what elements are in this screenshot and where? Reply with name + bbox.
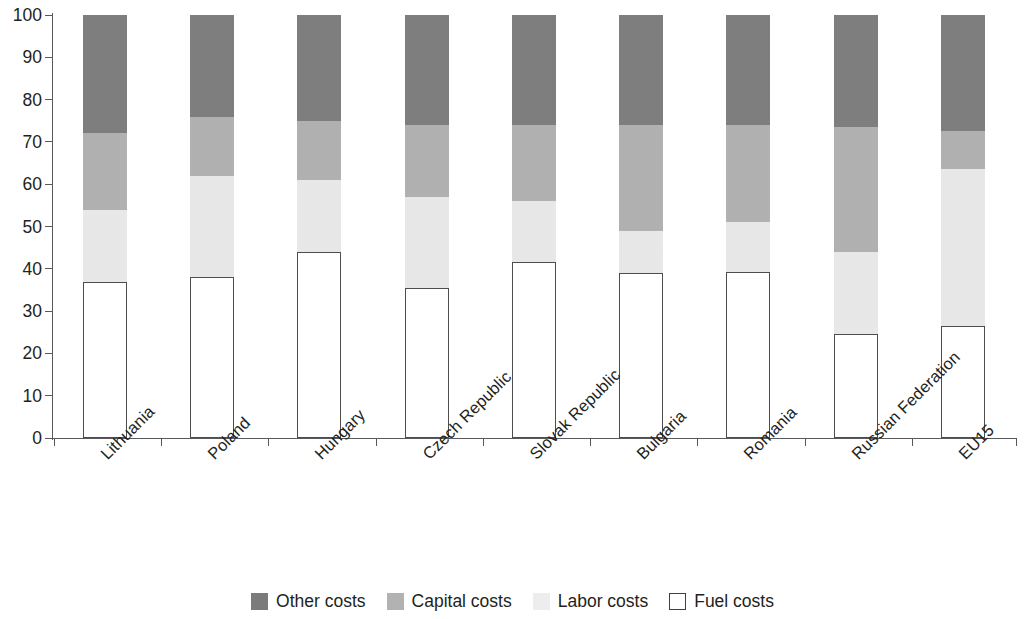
legend-label: Labor costs bbox=[558, 592, 648, 610]
legend-item-other-costs: Other costs bbox=[251, 592, 365, 610]
x-axis-tick bbox=[54, 438, 55, 446]
y-axis-tick-label: 40 bbox=[0, 260, 42, 278]
legend-label: Fuel costs bbox=[694, 592, 774, 610]
bar-segment-other-costs bbox=[83, 15, 127, 133]
bar-segment-fuel-costs bbox=[190, 277, 234, 438]
bar-bulgaria bbox=[619, 15, 663, 438]
legend-swatch-icon bbox=[251, 593, 268, 610]
bar-segment-capital-costs bbox=[941, 131, 985, 169]
bar-segment-capital-costs bbox=[405, 125, 449, 197]
bar-russian-federation bbox=[834, 15, 878, 438]
bar-segment-capital-costs bbox=[619, 125, 663, 231]
bar-segment-other-costs bbox=[405, 15, 449, 125]
bar-segment-labor-costs bbox=[512, 201, 556, 262]
y-axis-tick-label: 50 bbox=[0, 218, 42, 236]
bar-segment-fuel-costs bbox=[834, 334, 878, 438]
legend-swatch-icon bbox=[669, 593, 686, 610]
y-axis-tick-label: 30 bbox=[0, 302, 42, 320]
bar-segment-capital-costs bbox=[297, 121, 341, 180]
legend-item-capital-costs: Capital costs bbox=[387, 592, 512, 610]
x-axis-tick bbox=[376, 438, 377, 446]
bar-segment-other-costs bbox=[726, 15, 770, 125]
stacked-bar-chart: 0102030405060708090100 LithuaniaPolandHu… bbox=[0, 0, 1025, 619]
y-axis-tick-label: 70 bbox=[0, 133, 42, 151]
y-axis-tick-label: 20 bbox=[0, 344, 42, 362]
x-axis-tick bbox=[912, 438, 913, 446]
bar-segment-capital-costs bbox=[190, 117, 234, 176]
bar-segment-capital-costs bbox=[726, 125, 770, 222]
bar-segment-capital-costs bbox=[512, 125, 556, 201]
bar-segment-fuel-costs bbox=[83, 282, 127, 439]
bar-segment-other-costs bbox=[512, 15, 556, 125]
x-axis-tick bbox=[1016, 438, 1017, 446]
bar-romania bbox=[726, 15, 770, 438]
bar-segment-other-costs bbox=[190, 15, 234, 117]
legend-label: Capital costs bbox=[412, 592, 512, 610]
legend-item-fuel-costs: Fuel costs bbox=[669, 592, 774, 610]
y-axis-tick-label: 10 bbox=[0, 387, 42, 405]
legend-item-labor-costs: Labor costs bbox=[533, 592, 648, 610]
bar-segment-other-costs bbox=[941, 15, 985, 131]
bar-segment-fuel-costs bbox=[512, 262, 556, 438]
bar-poland bbox=[190, 15, 234, 438]
bar-segment-capital-costs bbox=[83, 133, 127, 209]
legend-swatch-icon bbox=[533, 593, 550, 610]
bar-lithuania bbox=[83, 15, 127, 438]
bar-segment-labor-costs bbox=[297, 180, 341, 252]
chart-legend: Other costsCapital costsLabor costsFuel … bbox=[0, 592, 1025, 610]
legend-swatch-icon bbox=[387, 593, 404, 610]
y-axis-tick-label: 60 bbox=[0, 175, 42, 193]
bar-segment-labor-costs bbox=[726, 222, 770, 272]
bar-segment-labor-costs bbox=[941, 169, 985, 326]
bar-segment-fuel-costs bbox=[297, 252, 341, 438]
x-axis-tick bbox=[161, 438, 162, 446]
x-axis-tick bbox=[483, 438, 484, 446]
bar-segment-fuel-costs bbox=[405, 288, 449, 438]
bar-segment-labor-costs bbox=[83, 210, 127, 282]
bar-segment-labor-costs bbox=[190, 176, 234, 278]
y-axis-tick-label: 0 bbox=[0, 429, 42, 447]
y-axis-tick-label: 100 bbox=[0, 6, 42, 24]
legend-label: Other costs bbox=[276, 592, 365, 610]
bar-segment-fuel-costs bbox=[619, 273, 663, 438]
y-axis-tick-label: 90 bbox=[0, 48, 42, 66]
bar-segment-fuel-costs bbox=[726, 272, 770, 438]
bar-segment-other-costs bbox=[297, 15, 341, 121]
bar-segment-labor-costs bbox=[834, 252, 878, 334]
x-axis-tick bbox=[697, 438, 698, 446]
bar-czech-republic bbox=[405, 15, 449, 438]
bar-hungary bbox=[297, 15, 341, 438]
plot-area bbox=[52, 15, 1017, 438]
bar-segment-labor-costs bbox=[619, 231, 663, 273]
y-axis-tick-label: 80 bbox=[0, 91, 42, 109]
bar-segment-fuel-costs bbox=[941, 326, 985, 438]
bar-segment-capital-costs bbox=[834, 127, 878, 252]
bar-slovak-republic bbox=[512, 15, 556, 438]
x-axis-tick bbox=[268, 438, 269, 446]
bar-segment-labor-costs bbox=[405, 197, 449, 288]
x-axis-tick bbox=[590, 438, 591, 446]
bar-segment-other-costs bbox=[834, 15, 878, 127]
x-axis-tick bbox=[805, 438, 806, 446]
bar-segment-other-costs bbox=[619, 15, 663, 125]
